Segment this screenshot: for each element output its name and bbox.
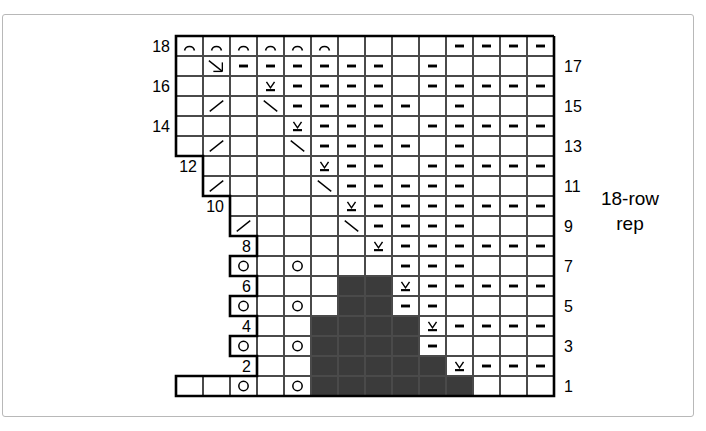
row-number-right-9: 9 [564, 219, 598, 235]
chart-cell-knit-blank-symbol [392, 76, 419, 96]
chart-cell-knit-blank-symbol [338, 236, 365, 256]
purl-dash-symbol [528, 157, 553, 175]
chart-cell-knit-blank-symbol [176, 76, 203, 96]
diagonal-right-symbol [204, 177, 229, 195]
purl-dash-symbol [393, 97, 418, 115]
chart-cell-knit-blank-symbol [392, 156, 419, 176]
chart-cell-knit-blank-symbol [392, 56, 419, 76]
chart-cell-knit-blank-symbol [176, 56, 203, 76]
purl-dash-symbol [393, 137, 418, 155]
chart-cell-knit-blank-symbol [500, 336, 527, 356]
chart-cell-no-stitch-dark-symbol [392, 336, 419, 356]
chart-cell-diagonal-left-symbol [257, 96, 284, 116]
purl-dash-symbol [420, 177, 445, 195]
chart-cell-purl-dash-symbol [500, 156, 527, 176]
chart-cell-knit-blank-symbol [176, 116, 203, 136]
chart-cell-arc-symbol [284, 36, 311, 56]
chart-cell-purl-dash-symbol [446, 276, 473, 296]
chart-cell-purl-dash-symbol [338, 56, 365, 76]
chart-cell-yarn-over-circle-symbol [230, 256, 257, 276]
chart-cell-no-stitch-dark-symbol [338, 316, 365, 336]
purl-dash-symbol [285, 97, 310, 115]
chart-cell-purl-dash-symbol [500, 116, 527, 136]
purl-dash-symbol [285, 57, 310, 75]
diagonal-right-symbol [231, 217, 256, 235]
row-number-left-8: 8 [211, 239, 251, 255]
purl-dash-symbol [393, 217, 418, 235]
chart-cell-purl-dash-symbol [446, 316, 473, 336]
chart-cell-yarn-over-circle-symbol [230, 296, 257, 316]
chart-cell-knit-blank-symbol [230, 176, 257, 196]
purl-dash-symbol [312, 137, 337, 155]
chart-cell-knit-blank-symbol [392, 36, 419, 56]
chart-cell-knit-blank-symbol [473, 56, 500, 76]
chart-cell-no-stitch-dark-symbol [446, 376, 473, 396]
chart-cell-knit-blank-symbol [284, 176, 311, 196]
row-number-left-14: 14 [130, 119, 170, 135]
chart-cell-purl-dash-symbol [446, 176, 473, 196]
purl-dash-symbol [339, 117, 364, 135]
chart-cell-diagonal-right-symbol [203, 136, 230, 156]
chart-cell-slip-stitch-vee-symbol [446, 356, 473, 376]
chart-cell-no-stitch-dark-symbol [365, 336, 392, 356]
chart-cell-purl-dash-symbol [419, 236, 446, 256]
purl-dash-symbol [447, 97, 472, 115]
slip-stitch-vee-symbol [258, 77, 283, 95]
purl-dash-symbol [393, 237, 418, 255]
chart-cell-outside [176, 336, 203, 356]
purl-dash-symbol [474, 157, 499, 175]
row-number-right-17: 17 [564, 59, 598, 75]
chart-cell-slip-stitch-vee-symbol [257, 76, 284, 96]
chart-cell-yarn-over-circle-symbol [284, 256, 311, 276]
chart-cell-knit-blank-symbol [527, 256, 554, 276]
purl-dash-symbol [258, 57, 283, 75]
chart-cell-knit-blank-symbol [311, 256, 338, 276]
chart-cell-purl-dash-symbol [311, 76, 338, 96]
chart-cell-yarn-over-circle-symbol [230, 336, 257, 356]
chart-cell-purl-dash-symbol [527, 76, 554, 96]
chart-cell-knit-blank-symbol [257, 316, 284, 336]
slip-stitch-vee-symbol [366, 237, 391, 255]
chart-cell-knit-blank-symbol [473, 256, 500, 276]
chart-cell-knit-blank-symbol [257, 116, 284, 136]
purl-dash-symbol [474, 197, 499, 215]
chart-cell-no-stitch-dark-symbol [392, 356, 419, 376]
chart-cell-diagonal-left-symbol [311, 176, 338, 196]
chart-cell-knit-blank-symbol [257, 336, 284, 356]
chart-cell-purl-dash-symbol [527, 196, 554, 216]
purl-dash-symbol [528, 197, 553, 215]
chart-cell-outside [176, 216, 203, 236]
chart-cell-purl-dash-symbol [338, 176, 365, 196]
chart-cell-purl-dash-symbol [365, 96, 392, 116]
purl-dash-symbol [474, 37, 499, 55]
purl-dash-symbol [366, 57, 391, 75]
purl-dash-symbol [474, 357, 499, 375]
purl-dash-symbol [447, 177, 472, 195]
chart-cell-knit-blank-symbol [527, 96, 554, 116]
purl-dash-symbol [339, 137, 364, 155]
purl-dash-symbol [312, 97, 337, 115]
diagonal-left-symbol [285, 137, 310, 155]
arc-symbol [177, 37, 202, 55]
chart-cell-slip-stitch-vee-symbol [392, 276, 419, 296]
chart-cell-knit-blank-symbol [446, 296, 473, 316]
chart-cell-outside [176, 236, 203, 256]
row-number-right-1: 1 [564, 379, 598, 395]
chart-cell-knit-blank-symbol [284, 196, 311, 216]
row-number-right-11: 11 [564, 179, 598, 195]
chart-cell-purl-dash-symbol [419, 276, 446, 296]
chart-cell-purl-dash-symbol [338, 136, 365, 156]
slip-stitch-vee-symbol [312, 157, 337, 175]
chart-cell-no-stitch-dark-symbol [365, 376, 392, 396]
purl-dash-symbol [231, 57, 256, 75]
chart-cell-knit-blank-symbol [311, 196, 338, 216]
chart-cell-purl-dash-symbol [527, 236, 554, 256]
purl-dash-symbol [528, 237, 553, 255]
chart-cell-purl-dash-symbol [473, 356, 500, 376]
purl-dash-symbol [501, 317, 526, 335]
row-number-left-2: 2 [211, 359, 251, 375]
chart-cell-knit-blank-symbol [500, 256, 527, 276]
arc-symbol [231, 37, 256, 55]
chart-cell-purl-dash-symbol [419, 196, 446, 216]
chart-cell-outside [176, 276, 203, 296]
